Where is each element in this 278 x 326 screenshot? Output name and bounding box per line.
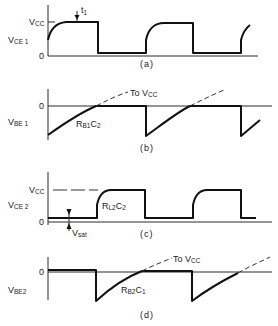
vsat-label: Vsat <box>72 228 87 238</box>
panel-d-zero-label: 0 <box>39 267 44 277</box>
vsat-arrow-up-icon <box>67 223 72 229</box>
panel-a: t1 VCC VCE 1 0 (a) <box>8 5 258 69</box>
panel-d-rc-label: RB2C1 <box>121 285 146 295</box>
panel-d-to-vcc-dashed-2 <box>238 257 270 273</box>
panel-b-zero-label: 0 <box>39 101 44 111</box>
panel-b-to-vcc-label: To VCC <box>130 88 158 98</box>
t1-label: t1 <box>81 5 88 16</box>
panel-d: To VCC RB2C1 VBE2 0 (d) <box>8 254 272 320</box>
panel-c-waveform <box>48 190 256 218</box>
panel-d-to-vcc-dashed <box>142 258 172 271</box>
panel-b: To VCC RB1C2 VBE 1 0 (b) <box>8 88 272 153</box>
panel-b-to-vcc-dashed-2 <box>190 90 224 106</box>
panel-a-y-label: VCE 1 <box>8 35 29 45</box>
panel-b-y-label: VBE 1 <box>8 117 28 127</box>
panel-a-waveform <box>48 22 250 53</box>
panel-c-zero-label: 0 <box>39 217 44 227</box>
panel-a-vcc-label: VCC <box>29 17 45 27</box>
panel-c-caption: (c) <box>140 229 154 239</box>
panel-c-vcc-label: VCC <box>29 185 45 195</box>
panel-a-zero-label: 0 <box>39 51 44 61</box>
t1-arrow-icon <box>75 15 80 20</box>
panel-d-to-vcc-label: To VCC <box>173 254 201 264</box>
panel-c: Vsat RL2C2 VCC VCE 2 0 (c) <box>8 172 272 239</box>
panel-b-to-vcc-dashed <box>96 92 128 106</box>
astable-multivibrator-waveforms: t1 VCC VCE 1 0 (a) To VCC RB1C2 VBE 1 0 … <box>0 0 278 326</box>
panel-d-waveform <box>48 270 238 301</box>
panel-b-rc-label: RB1C2 <box>76 119 101 129</box>
panel-d-caption: (d) <box>140 310 154 320</box>
panel-c-y-label: VCE 2 <box>8 200 29 210</box>
panel-c-rc-label: RL2C2 <box>102 201 126 211</box>
panel-b-caption: (b) <box>140 143 154 153</box>
panel-a-caption: (a) <box>140 59 154 69</box>
panel-d-y-label: VBE2 <box>8 285 27 295</box>
vsat-arrow-down-icon <box>67 209 72 215</box>
